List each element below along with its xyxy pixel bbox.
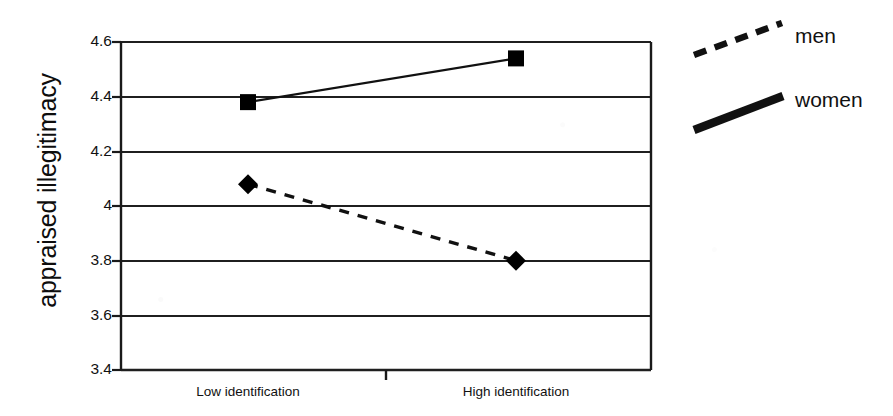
y-axis-ticks <box>112 42 121 370</box>
marker-square-low <box>240 94 256 110</box>
y-tick-label: 3.4 <box>52 360 112 378</box>
marker-diamond-high <box>506 251 526 271</box>
y-tick-label: 4.6 <box>52 32 112 50</box>
legend-label-men: men <box>795 24 836 48</box>
marker-square-high <box>508 50 524 66</box>
line-chart-figure: appraised illegitimacy 4.6 4.4 4.2 4 3.8… <box>0 0 893 416</box>
y-tick-label: 4.4 <box>52 87 112 105</box>
series-men <box>238 174 526 271</box>
y-tick-label: 4 <box>52 196 112 214</box>
legend-women-line-icon <box>694 96 783 130</box>
x-tick-label-low-identification: Low identification <box>168 384 328 399</box>
marker-diamond-low <box>238 174 258 194</box>
grid-lines <box>121 42 651 370</box>
y-tick-label: 3.8 <box>52 251 112 269</box>
y-tick-label: 4.2 <box>52 142 112 160</box>
legend-men-line-icon <box>694 23 782 55</box>
x-tick-label-high-identification: High identification <box>436 384 596 399</box>
legend-label-women: women <box>795 88 863 112</box>
y-tick-label: 3.6 <box>52 306 112 324</box>
plot-canvas <box>0 0 893 416</box>
series-women <box>240 50 524 110</box>
